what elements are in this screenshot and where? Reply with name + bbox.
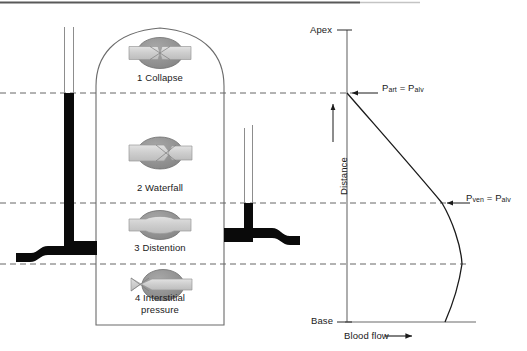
diagram-svg — [0, 0, 527, 351]
zone-4-label-line1: 4 Interstitial — [118, 292, 202, 303]
zone-1-label: 1 Collapse — [124, 72, 196, 83]
vessel-zone-1-collapse — [129, 38, 191, 69]
blood-flow-axis-label: Blood flow — [344, 330, 389, 341]
distance-axis-label: Distance — [338, 157, 349, 195]
arterial-manometer — [16, 27, 97, 262]
zone-2-label: 2 Waterfall — [122, 182, 198, 193]
venous-manometer-base — [253, 228, 300, 245]
vessel-zone-3-distention — [129, 211, 191, 240]
p-ven-annotation: Pven = Palv — [466, 192, 511, 203]
p-art-sub2: alv — [415, 86, 424, 93]
p-ven-eq: = P — [484, 192, 502, 203]
base-label: Base — [311, 315, 333, 326]
p-art-eq: = P — [397, 82, 415, 93]
p-ven-sub2: alv — [502, 196, 511, 203]
diagram-canvas: 1 Collapse 2 Waterfall 3 Distention 4 In… — [0, 0, 527, 351]
blood-flow-curve — [347, 93, 462, 322]
apex-label: Apex — [310, 24, 332, 35]
p-art-annotation: Part = Palv — [382, 82, 424, 93]
p-ven-sub1: ven — [472, 196, 484, 203]
arterial-manometer-base — [16, 241, 74, 262]
p-art-sub1: art — [388, 86, 396, 93]
arterial-fluid-column — [64, 93, 74, 241]
vessel-zone-2-waterfall — [129, 137, 192, 169]
zone-3-label: 3 Distention — [122, 242, 198, 253]
zone-4-label-line2: pressure — [118, 304, 202, 315]
venous-manometer — [224, 125, 300, 245]
